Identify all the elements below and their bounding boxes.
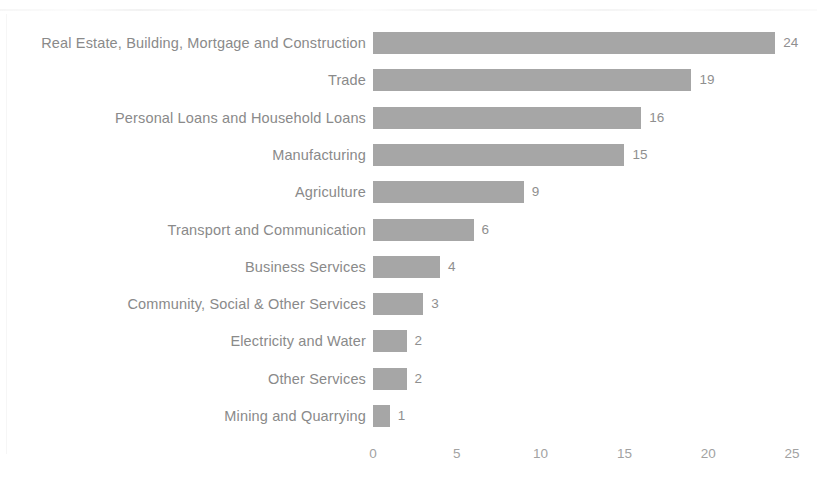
- bar-row: Business Services4: [0, 256, 817, 278]
- bar: [373, 368, 407, 390]
- bar-row: Community, Social & Other Services3: [0, 293, 817, 315]
- bar: [373, 69, 691, 91]
- bar-row: Agriculture9: [0, 181, 817, 203]
- category-label: Manufacturing: [272, 148, 366, 163]
- bar-value-label: 16: [649, 111, 664, 125]
- bar-value-label: 4: [448, 260, 456, 274]
- category-label: Trade: [328, 73, 366, 88]
- category-label: Other Services: [268, 371, 366, 386]
- category-label: Transport and Communication: [167, 222, 366, 237]
- bar: [373, 107, 641, 129]
- bar-value-label: 24: [783, 36, 798, 50]
- bar-row: Mining and Quarrying1: [0, 405, 817, 427]
- category-label: Business Services: [245, 260, 366, 275]
- bar-row: Transport and Communication6: [0, 219, 817, 241]
- bar: [373, 144, 624, 166]
- bar-value-label: 1: [398, 409, 406, 423]
- bar-row: Manufacturing15: [0, 144, 817, 166]
- x-axis-tick-label: 0: [369, 447, 377, 461]
- bar: [373, 32, 775, 54]
- x-axis-tick-label: 5: [453, 447, 461, 461]
- x-axis-tick-label: 10: [533, 447, 548, 461]
- bar-row: Electricity and Water2: [0, 330, 817, 352]
- x-axis-tick-label: 20: [701, 447, 716, 461]
- bar-value-label: 2: [415, 335, 423, 349]
- bar-value-label: 19: [699, 74, 714, 88]
- x-axis-tick-label: 25: [784, 447, 799, 461]
- x-axis: 0510152025: [0, 447, 817, 469]
- bar-value-label: 6: [482, 223, 490, 237]
- horizontal-bar-chart: Real Estate, Building, Mortgage and Cons…: [0, 0, 817, 480]
- bar-value-label: 3: [431, 297, 439, 311]
- bar-value-label: 9: [532, 185, 540, 199]
- bar: [373, 219, 474, 241]
- category-label: Real Estate, Building, Mortgage and Cons…: [41, 36, 366, 51]
- bar: [373, 256, 440, 278]
- category-label: Electricity and Water: [230, 334, 366, 349]
- bar-row: Personal Loans and Household Loans16: [0, 107, 817, 129]
- category-label: Mining and Quarrying: [224, 409, 366, 424]
- x-axis-tick-label: 15: [617, 447, 632, 461]
- bar-row: Other Services2: [0, 368, 817, 390]
- bar: [373, 330, 407, 352]
- bar-row: Trade19: [0, 69, 817, 91]
- bar-value-label: 2: [415, 372, 423, 386]
- category-label: Agriculture: [295, 185, 366, 200]
- category-label: Personal Loans and Household Loans: [115, 110, 366, 125]
- bar: [373, 293, 423, 315]
- bar: [373, 405, 390, 427]
- category-label: Community, Social & Other Services: [127, 297, 366, 312]
- bar-value-label: 15: [632, 148, 647, 162]
- bar-row: Real Estate, Building, Mortgage and Cons…: [0, 32, 817, 54]
- bar: [373, 181, 524, 203]
